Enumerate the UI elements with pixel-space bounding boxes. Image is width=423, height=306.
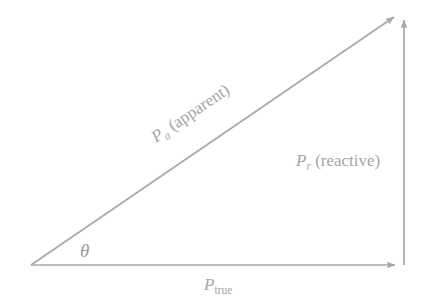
apparent-power-qualifier: (apparent): [165, 80, 234, 135]
reactive-power-label: Pr (reactive): [295, 151, 380, 172]
apparent-power-label-group: Pa (apparent): [147, 80, 234, 148]
apparent-power-label: Pa (apparent): [147, 80, 234, 148]
true-power-label: Ptrue: [203, 275, 232, 296]
power-triangle-figure: θ Pa (apparent) Pr (reactive) Ptrue: [0, 0, 423, 306]
theta-angle-label: θ: [80, 240, 89, 261]
reactive-power-qualifier: (reactive): [315, 151, 380, 170]
apparent-power-vector: [31, 17, 394, 265]
true-power-subscript: true: [214, 284, 232, 296]
power-triangle-diagram: θ Pa (apparent) Pr (reactive) Ptrue: [0, 0, 423, 306]
reactive-power-symbol: P: [295, 151, 306, 170]
true-power-symbol: P: [203, 275, 214, 294]
